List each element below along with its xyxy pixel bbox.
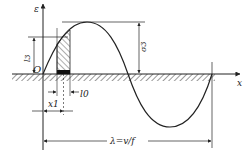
position-label: x1	[48, 99, 59, 109]
x-axis-label: x	[237, 78, 242, 88]
gauge-label: l0	[80, 89, 89, 99]
gauge-bar	[57, 70, 70, 74]
ground-hatch	[12, 74, 215, 81]
wavelength-label: λ=v/f	[109, 136, 136, 146]
wave-diagram: x ε O σ3 l3 l0 x1 λ=v/f	[0, 0, 249, 153]
amplitude-label: σ3	[139, 41, 148, 52]
epsilon-axis-label: ε	[34, 4, 39, 14]
level-label: l3	[23, 54, 32, 62]
